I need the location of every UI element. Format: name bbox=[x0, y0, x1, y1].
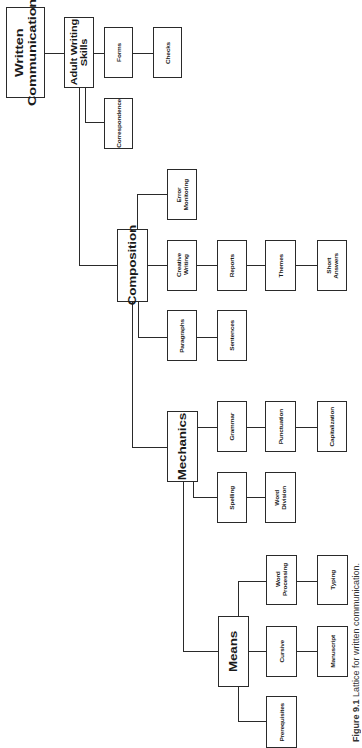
node-label: Written Communication bbox=[12, 0, 39, 106]
node-label: Checks bbox=[164, 42, 170, 64]
node-punctuation: Punctuation bbox=[265, 401, 296, 452]
edge-aws-composition-h bbox=[79, 265, 117, 266]
node-label: Word Division bbox=[274, 486, 287, 510]
figure-caption: Figure 9.1 Lattice for written communica… bbox=[350, 540, 362, 742]
node-grammar: Grammar bbox=[217, 401, 247, 452]
node-label: Short Answers bbox=[326, 253, 339, 279]
node-sentences: Sentences bbox=[217, 310, 247, 361]
node-label: Mechanics bbox=[176, 413, 188, 480]
edge-mech-grammar bbox=[198, 427, 217, 428]
node-short-answers: Short Answers bbox=[317, 240, 347, 291]
node-written-communication: Written Communication bbox=[6, 7, 45, 98]
node-capitalization: Capitalization bbox=[317, 401, 347, 452]
node-forms: Forms bbox=[104, 27, 133, 78]
edge-wp-typing bbox=[297, 581, 317, 582]
node-label: Correspondence bbox=[115, 99, 121, 148]
node-label: Grammar bbox=[229, 413, 235, 441]
edge-paragraphs-sentences bbox=[197, 337, 217, 338]
node-word-processing: Word Processing bbox=[266, 555, 297, 605]
edge-punct-cap bbox=[296, 427, 317, 428]
edge-mech-means-v bbox=[183, 482, 184, 652]
edge-mech-spelling-h bbox=[193, 497, 217, 498]
edge-cursive-manuscript bbox=[297, 651, 317, 652]
node-typing: Typing bbox=[317, 555, 348, 605]
edge-mech-spelling-v bbox=[193, 482, 194, 498]
edge-creative-reports bbox=[197, 265, 217, 266]
node-label: Typing bbox=[329, 570, 335, 590]
edge-comp-mechanics-h bbox=[132, 447, 167, 448]
node-label: Sentences bbox=[229, 320, 235, 351]
edge-comp-paragraphs-v bbox=[138, 302, 139, 338]
edge-comp-mechanics-v bbox=[132, 302, 133, 448]
node-correspondence: Correspondence bbox=[104, 98, 133, 149]
edge-wc-aws bbox=[45, 53, 64, 54]
node-label: Themes bbox=[277, 254, 283, 277]
edge-means-cursive bbox=[249, 651, 266, 652]
node-label: Word Processing bbox=[275, 563, 288, 596]
node-cursive: Cursive bbox=[266, 626, 297, 677]
node-error-monitoring: Error Monitoring bbox=[167, 169, 197, 220]
node-label: Creative Writing bbox=[176, 253, 189, 277]
node-adult-writing-skills: Adult Writing Skills bbox=[64, 17, 94, 88]
edge-comp-error-h bbox=[137, 194, 167, 195]
node-label: Composition bbox=[126, 225, 138, 305]
edge-means-prereq-h bbox=[238, 721, 266, 722]
node-label: Cursive bbox=[278, 640, 284, 662]
node-label: Forms bbox=[115, 43, 121, 62]
caption-body: Lattice for written communication. bbox=[351, 563, 361, 700]
node-spelling: Spelling bbox=[217, 472, 247, 523]
edge-aws-forms bbox=[94, 53, 104, 54]
edge-comp-paragraphs-h bbox=[138, 337, 167, 338]
node-label: Error Monitoring bbox=[176, 179, 189, 211]
edge-comp-creative bbox=[148, 265, 167, 266]
edge-mech-means-h bbox=[183, 651, 218, 652]
edge-means-prereq-v bbox=[238, 687, 239, 722]
node-reports: Reports bbox=[217, 240, 247, 291]
edge-forms-checks bbox=[133, 53, 153, 54]
node-label: Means bbox=[227, 631, 239, 672]
node-composition: Composition bbox=[117, 229, 148, 302]
caption-figure-label: Figure 9.1 bbox=[351, 699, 361, 742]
edge-spelling-worddiv bbox=[247, 497, 265, 498]
node-word-division: Word Division bbox=[265, 472, 296, 523]
edge-reports-themes bbox=[247, 265, 265, 266]
node-paragraphs: Paragraphs bbox=[167, 310, 197, 361]
node-label: Prerequisites bbox=[278, 703, 284, 742]
node-prerequisites: Prerequisites bbox=[266, 696, 297, 748]
node-manuscript: Manuscript bbox=[317, 626, 348, 677]
edge-grammar-punct bbox=[247, 427, 265, 428]
caption-text: Figure 9.1 Lattice for written communica… bbox=[351, 563, 361, 742]
node-themes: Themes bbox=[265, 240, 296, 291]
node-label: Adult Writing Skills bbox=[69, 19, 89, 85]
edge-themes-short bbox=[296, 265, 317, 266]
node-label: Punctuation bbox=[277, 409, 283, 444]
node-mechanics: Mechanics bbox=[167, 411, 198, 482]
edge-aws-composition-v bbox=[79, 88, 80, 266]
node-label: Capitalization bbox=[329, 407, 335, 446]
node-creative-writing: Creative Writing bbox=[167, 240, 197, 291]
node-label: Spelling bbox=[229, 486, 235, 510]
node-means: Means bbox=[218, 616, 249, 687]
node-label: Manuscript bbox=[329, 635, 335, 668]
edge-comp-error-v bbox=[137, 194, 138, 229]
node-checks: Checks bbox=[153, 27, 182, 78]
edge-means-wp-h bbox=[238, 581, 266, 582]
edge-aws-correspondence-h bbox=[85, 122, 104, 123]
edge-aws-correspondence-v bbox=[85, 88, 86, 123]
node-label: Reports bbox=[229, 254, 235, 277]
node-label: Paragraphs bbox=[179, 319, 185, 353]
edge-means-wp-v bbox=[238, 581, 239, 616]
